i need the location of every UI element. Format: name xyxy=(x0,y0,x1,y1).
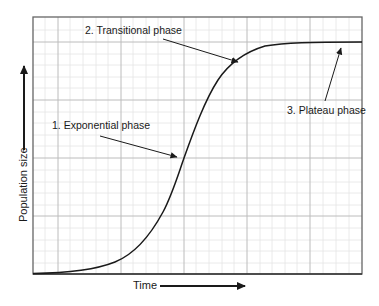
transitional-phase-label: 2. Transitional phase xyxy=(85,24,182,36)
x-axis: Time xyxy=(133,279,245,291)
plateau-phase-label: 3. Plateau phase xyxy=(287,104,366,116)
population-growth-diagram: 2. Transitional phase 1. Exponential pha… xyxy=(0,0,379,306)
annotation-plateau-phase: 3. Plateau phase xyxy=(287,48,366,116)
y-axis: Population size xyxy=(17,66,29,222)
minor-grid xyxy=(33,17,362,274)
exponential-phase-label: 1. Exponential phase xyxy=(52,119,150,131)
arrow-icon xyxy=(325,48,341,101)
x-axis-label: Time xyxy=(133,279,157,291)
plot-frame xyxy=(33,17,362,274)
y-axis-label: Population size xyxy=(17,147,29,222)
arrow-icon xyxy=(100,136,177,157)
major-grid xyxy=(33,17,362,274)
